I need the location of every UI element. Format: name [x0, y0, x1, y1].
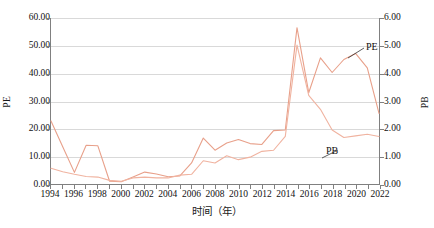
chart-figure: 0.0010.0020.0030.0040.0050.0060.00 0.001…: [0, 0, 434, 228]
series-label-pe: PE: [366, 41, 378, 52]
series-label-pb: PB: [326, 145, 338, 156]
pe-leader-line: [0, 0, 434, 228]
